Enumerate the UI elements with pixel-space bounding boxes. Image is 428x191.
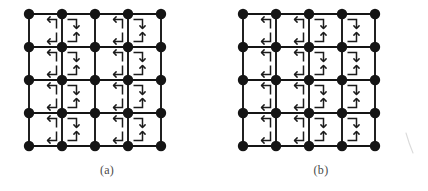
lattice-node — [337, 75, 347, 85]
figure-root: (a) (b) — [0, 0, 428, 191]
lattice-node — [271, 9, 281, 19]
lattice-node — [24, 141, 34, 151]
lattice-node — [337, 108, 347, 118]
lattice-node — [24, 42, 34, 52]
lattice-node — [238, 141, 248, 151]
lattice-node — [238, 9, 248, 19]
lattice-node — [304, 9, 314, 19]
lattice-node — [304, 75, 314, 85]
lattice-node — [57, 75, 67, 85]
lattice-node — [156, 42, 166, 52]
lattice-node — [123, 141, 133, 151]
lattice-node — [304, 141, 314, 151]
lattice-node — [123, 108, 133, 118]
lattice-node — [24, 9, 34, 19]
lattice-node — [57, 108, 67, 118]
lattice-node — [156, 108, 166, 118]
lattice-node — [271, 108, 281, 118]
panel-b: (b) — [214, 0, 428, 191]
lattice-node — [370, 42, 380, 52]
lattice-node — [156, 141, 166, 151]
lattice-node — [370, 108, 380, 118]
lattice-node — [370, 9, 380, 19]
lattice-node — [271, 42, 281, 52]
lattice-node — [90, 75, 100, 85]
lattice-node — [304, 42, 314, 52]
lattice-node — [90, 141, 100, 151]
lattice-node — [123, 9, 133, 19]
lattice-node — [370, 141, 380, 151]
lattice-node — [57, 9, 67, 19]
lattice-node — [123, 75, 133, 85]
lattice-node — [238, 108, 248, 118]
lattice-node — [57, 42, 67, 52]
panel-b-caption: (b) — [214, 163, 428, 178]
lattice-node — [123, 42, 133, 52]
lattice-node — [337, 141, 347, 151]
lattice-node — [156, 75, 166, 85]
panel-a-caption: (a) — [0, 163, 214, 178]
lattice-node — [57, 141, 67, 151]
lattice-node — [271, 75, 281, 85]
lattice-node — [238, 75, 248, 85]
lattice-node — [156, 9, 166, 19]
lattice-node — [337, 9, 347, 19]
lattice-node — [370, 75, 380, 85]
lattice-node — [238, 42, 248, 52]
scan-artifact-icon — [404, 131, 416, 157]
lattice-node — [24, 108, 34, 118]
panel-a: (a) — [0, 0, 214, 191]
lattice-node — [24, 75, 34, 85]
lattice-node — [90, 108, 100, 118]
lattice-node — [90, 42, 100, 52]
lattice-a — [0, 0, 214, 163]
lattice-node — [304, 108, 314, 118]
lattice-b — [214, 0, 428, 163]
lattice-node — [337, 42, 347, 52]
lattice-node — [271, 141, 281, 151]
lattice-node — [90, 9, 100, 19]
